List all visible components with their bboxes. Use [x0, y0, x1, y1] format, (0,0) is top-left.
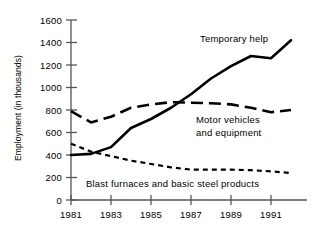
series-label-temporary-help: Temporary help: [200, 33, 268, 44]
series-label-motor-vehicles: Motor vehicles and equipment: [196, 114, 261, 139]
series-label-blast-furnaces: Blast furnaces and basic steel products: [86, 178, 259, 189]
series-label-motor-vehicles-line1: Motor vehicles: [196, 114, 261, 127]
series-label-motor-vehicles-line2: and equipment: [196, 127, 261, 140]
plot-area: [0, 0, 317, 233]
employment-line-chart: Employment (in thousands) 1600 1400 1200…: [0, 0, 317, 233]
